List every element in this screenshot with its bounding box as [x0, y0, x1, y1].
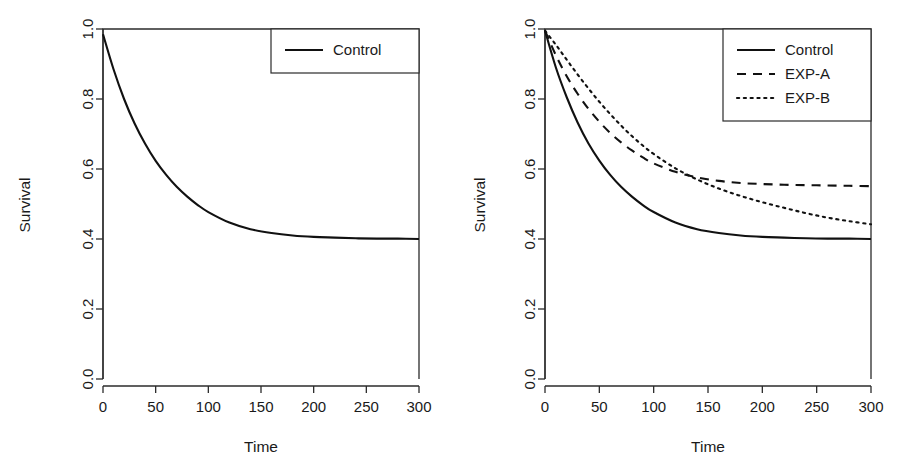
x-tick-label: 300 [858, 398, 883, 415]
chart-panel-right: Survival 0.00.20.40.60.81.0 050100150200… [455, 0, 909, 473]
x-tick-label: 100 [641, 398, 666, 415]
x-axis-right [545, 386, 871, 393]
y-tick-label: 0.0 [79, 369, 96, 390]
y-tick-labels-left: 0.00.20.40.60.81.0 [79, 19, 96, 390]
x-tick-label: 50 [147, 398, 164, 415]
y-tick-label: 0.6 [79, 159, 96, 180]
x-tick-label: 0 [541, 398, 549, 415]
y-tick-marks-right [538, 29, 545, 379]
x-tick-label: 50 [591, 398, 608, 415]
x-tick-label: 200 [750, 398, 775, 415]
x-axis-left [103, 386, 419, 393]
x-tick-labels-right: 050100150200250300 [541, 398, 884, 415]
plot-frame-left [103, 29, 419, 379]
y-tick-label: 0.0 [521, 369, 538, 390]
x-tick-label: 250 [804, 398, 829, 415]
y-tick-labels-right: 0.00.20.40.60.81.0 [521, 19, 538, 390]
y-axis-title-right: Survival [471, 177, 488, 232]
chart-panel-left: Survival 0.00.20.40.60.81.0 050100150200… [0, 0, 454, 473]
y-axis-title-left: Survival [16, 177, 33, 232]
x-tick-labels-left: 050100150200250300 [99, 398, 432, 415]
x-tick-label: 200 [301, 398, 326, 415]
legend-label-exp-a: EXP-A [785, 65, 830, 82]
survival-curves-figure: Survival 0.00.20.40.60.81.0 050100150200… [0, 0, 909, 473]
x-tick-marks-right [545, 386, 871, 393]
y-tick-label: 0.6 [521, 159, 538, 180]
legend-label-control: Control [785, 41, 833, 58]
x-axis-title-right: Time [691, 438, 725, 455]
x-axis-title-left: Time [244, 438, 278, 455]
x-tick-label: 0 [99, 398, 107, 415]
x-tick-label: 150 [695, 398, 720, 415]
x-tick-label: 250 [354, 398, 379, 415]
y-tick-label: 0.4 [521, 229, 538, 250]
x-tick-marks-left [103, 386, 419, 393]
legend-right[interactable]: ControlEXP-AEXP-B [723, 29, 871, 121]
legend-label-control: Control [333, 41, 381, 58]
y-tick-label: 1.0 [79, 19, 96, 40]
x-tick-label: 300 [406, 398, 431, 415]
y-tick-label: 1.0 [521, 19, 538, 40]
x-tick-label: 150 [248, 398, 273, 415]
y-tick-label: 0.8 [79, 89, 96, 110]
y-tick-label: 0.8 [521, 89, 538, 110]
x-tick-label: 100 [196, 398, 221, 415]
y-tick-label: 0.2 [79, 299, 96, 320]
y-tick-marks-left [96, 29, 103, 379]
legend-label-exp-b: EXP-B [785, 89, 830, 106]
y-tick-label: 0.4 [79, 229, 96, 250]
y-axis-left [96, 29, 103, 379]
y-tick-label: 0.2 [521, 299, 538, 320]
legend-left[interactable]: Control [271, 29, 419, 73]
y-axis-right [538, 29, 545, 379]
